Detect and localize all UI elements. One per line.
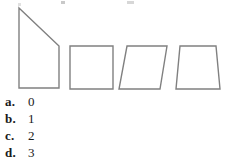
answer-value: 0 (28, 93, 35, 110)
quadrilateral-shapes-figure (0, 0, 230, 93)
answer-option-b[interactable]: b. 1 (0, 110, 230, 127)
answer-letter: b. (5, 110, 16, 127)
multiple-choice-answers: a. 0 b. 1 c. 2 d. 3 (0, 93, 230, 161)
figure-area (0, 0, 230, 93)
answer-letter: d. (5, 144, 16, 161)
answer-option-c[interactable]: c. 2 (0, 127, 230, 144)
parallelogram-shape (119, 46, 167, 89)
trapezoid-shape (176, 46, 220, 89)
right-trapezoid-shape (19, 8, 59, 88)
answer-letter: c. (5, 127, 14, 144)
square-shape (70, 46, 113, 89)
answer-letter: a. (5, 93, 15, 110)
answer-value: 3 (28, 144, 35, 161)
answer-value: 2 (28, 127, 35, 144)
answer-option-a[interactable]: a. 0 (0, 93, 230, 110)
answer-option-d[interactable]: d. 3 (0, 144, 230, 161)
answer-value: 1 (28, 110, 35, 127)
